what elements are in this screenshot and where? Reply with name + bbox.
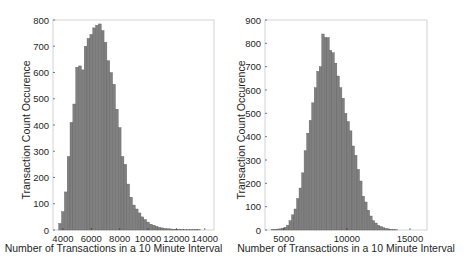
histogram-bar	[107, 61, 110, 230]
y-tick-label: 400	[245, 131, 261, 142]
histogram-bar	[90, 34, 93, 230]
histogram-bar	[276, 229, 279, 230]
histogram-bar	[141, 217, 144, 230]
histogram-bar	[279, 229, 282, 230]
histogram-bar	[155, 226, 158, 230]
histogram-bar	[172, 229, 175, 230]
histogram-bar	[342, 98, 345, 230]
histogram-bar	[365, 202, 368, 230]
histogram-bar	[294, 209, 297, 230]
bars	[59, 24, 201, 230]
histogram-bar	[286, 225, 289, 230]
histogram-bar	[96, 25, 99, 230]
histogram-bar	[104, 42, 107, 230]
x-axis-label: Number of Transactions in a 10 Minute In…	[5, 242, 223, 254]
histogram-bar	[291, 215, 294, 230]
histogram-bar	[164, 228, 167, 230]
histogram-bar	[299, 188, 302, 230]
histogram-bar	[319, 67, 322, 230]
histogram-bar	[62, 212, 65, 230]
histogram-bar	[327, 38, 330, 231]
histogram-bar	[124, 164, 127, 230]
y-tick-label: 700	[33, 41, 49, 52]
histogram-bar	[178, 229, 181, 230]
histogram-bar	[380, 227, 383, 231]
histogram-bar	[144, 220, 147, 231]
histogram-bar	[274, 229, 277, 230]
histogram-bar	[347, 122, 350, 231]
histogram-bar	[127, 184, 130, 230]
histogram-bar	[195, 229, 198, 230]
histogram-bar	[344, 113, 347, 230]
histogram-bar	[121, 157, 124, 231]
histogram-bar	[93, 28, 96, 230]
histogram-left-svg: 0100200300400500600700800400060008000100…	[0, 0, 234, 264]
histogram-bar	[289, 221, 292, 230]
x-axis-label: Number of Transactions in a 10 Minute In…	[237, 242, 455, 254]
histogram-bar	[357, 169, 360, 230]
y-tick-label: 0	[256, 225, 261, 236]
histogram-bar	[362, 196, 365, 230]
histogram-right-svg: 0100200300400500600700800900500010000150…	[233, 0, 467, 264]
histogram-bar	[372, 221, 375, 230]
histogram-bar	[132, 205, 135, 230]
y-tick-label: 500	[245, 108, 261, 119]
histogram-bar	[332, 53, 335, 230]
y-axis-label: Transaction Count Occurence	[20, 60, 32, 199]
histogram-bar	[367, 210, 370, 230]
histogram-bar	[322, 34, 325, 230]
histogram-bar	[355, 155, 358, 230]
histogram-bar	[334, 63, 337, 230]
histogram-bar	[87, 38, 90, 230]
y-tick-label: 100	[33, 198, 49, 209]
histogram-bar	[98, 24, 101, 230]
histogram-bar	[339, 88, 342, 230]
y-tick-label: 500	[33, 93, 49, 104]
histogram-bar	[101, 31, 104, 231]
histogram-bar	[64, 192, 67, 230]
histogram-bar	[307, 133, 310, 230]
histogram-bar	[312, 103, 315, 230]
histogram-bar	[135, 209, 138, 230]
histogram-bar	[302, 173, 305, 230]
histogram-bar	[79, 66, 82, 230]
y-tick-label: 300	[33, 146, 49, 157]
y-tick-label: 600	[33, 67, 49, 78]
histogram-bar	[113, 84, 116, 230]
histogram-bar	[377, 225, 380, 230]
histogram-bar	[115, 109, 118, 230]
histogram-bar	[314, 88, 317, 230]
histogram-bar	[324, 38, 327, 231]
histogram-bar	[59, 223, 62, 230]
bars	[271, 34, 397, 230]
y-tick-label: 900	[245, 15, 261, 26]
histogram-bar	[161, 228, 164, 230]
histogram-bar	[138, 213, 141, 230]
histogram-bar	[297, 199, 300, 231]
histogram-bar	[329, 50, 332, 230]
histogram-bar	[360, 181, 363, 230]
histogram-bar	[73, 104, 76, 230]
histogram-bar	[152, 225, 155, 230]
histogram-right: 0100200300400500600700800900500010000150…	[233, 0, 467, 264]
histogram-bar	[382, 228, 385, 230]
histogram-left: 0100200300400500600700800400060008000100…	[0, 0, 234, 264]
histogram-bar	[349, 131, 352, 230]
histogram-bar	[84, 46, 87, 230]
y-tick-label: 100	[245, 201, 261, 212]
y-tick-label: 0	[44, 225, 49, 236]
y-tick-label: 400	[33, 120, 49, 131]
y-tick-label: 700	[245, 61, 261, 72]
histogram-bar	[352, 146, 355, 230]
histogram-bar	[317, 71, 320, 230]
histogram-bar	[181, 229, 184, 230]
histogram-bar	[81, 70, 84, 230]
y-tick-label: 300	[245, 155, 261, 166]
y-axis-label: Transaction Count Occurence	[235, 60, 247, 199]
y-tick-label: 800	[33, 15, 49, 26]
histogram-bar	[337, 76, 340, 230]
histogram-bar	[387, 229, 390, 230]
histogram-bar	[385, 228, 388, 230]
y-tick-label: 800	[245, 38, 261, 49]
histogram-bar	[110, 73, 113, 231]
